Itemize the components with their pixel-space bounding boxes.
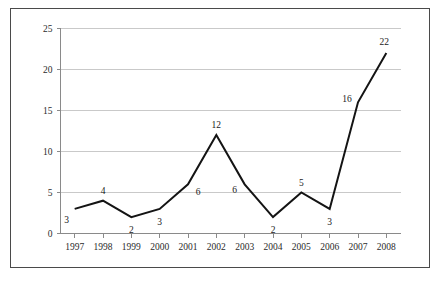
data-point-label: 3 — [327, 217, 332, 227]
x-axis-tick-labels: 1997199819992000200120022003200420052006… — [65, 242, 396, 252]
x-tick-label: 2002 — [207, 242, 226, 252]
x-tick-label: 1998 — [94, 242, 113, 252]
data-point-label: 5 — [299, 178, 304, 188]
data-point-label: 16 — [342, 94, 352, 104]
line-chart: 0510152025 19971998199920002001200220032… — [0, 0, 441, 285]
axis-ticks-group — [57, 29, 387, 238]
y-tick-label: 15 — [43, 106, 53, 116]
data-point-label: 2 — [129, 225, 134, 235]
data-point-label: 2 — [271, 225, 276, 235]
x-tick-label: 2008 — [377, 242, 396, 252]
x-tick-label: 2007 — [349, 242, 368, 252]
data-point-label: 3 — [157, 217, 162, 227]
x-tick-label: 2001 — [179, 242, 198, 252]
data-point-label: 6 — [196, 187, 201, 197]
y-tick-label: 25 — [43, 24, 53, 34]
x-tick-label: 1997 — [65, 242, 84, 252]
x-tick-label: 2004 — [264, 242, 283, 252]
y-tick-label: 5 — [48, 188, 53, 198]
x-tick-label: 2006 — [320, 242, 339, 252]
gridlines-group — [61, 29, 401, 193]
x-tick-label: 2003 — [235, 242, 254, 252]
y-axis-tick-labels: 0510152025 — [43, 24, 53, 239]
x-tick-label: 2005 — [292, 242, 311, 252]
y-tick-label: 0 — [48, 229, 53, 239]
chart-svg-canvas: 0510152025 19971998199920002001200220032… — [0, 0, 441, 285]
data-point-label: 4 — [101, 186, 106, 196]
x-tick-label: 2000 — [150, 242, 169, 252]
data-point-label: 12 — [212, 120, 222, 130]
data-point-label: 6 — [232, 185, 237, 195]
y-tick-label: 20 — [43, 65, 53, 75]
data-point-label: 3 — [64, 215, 69, 225]
y-tick-label: 10 — [43, 147, 53, 157]
data-point-label: 22 — [380, 37, 390, 47]
x-tick-label: 1999 — [122, 242, 141, 252]
